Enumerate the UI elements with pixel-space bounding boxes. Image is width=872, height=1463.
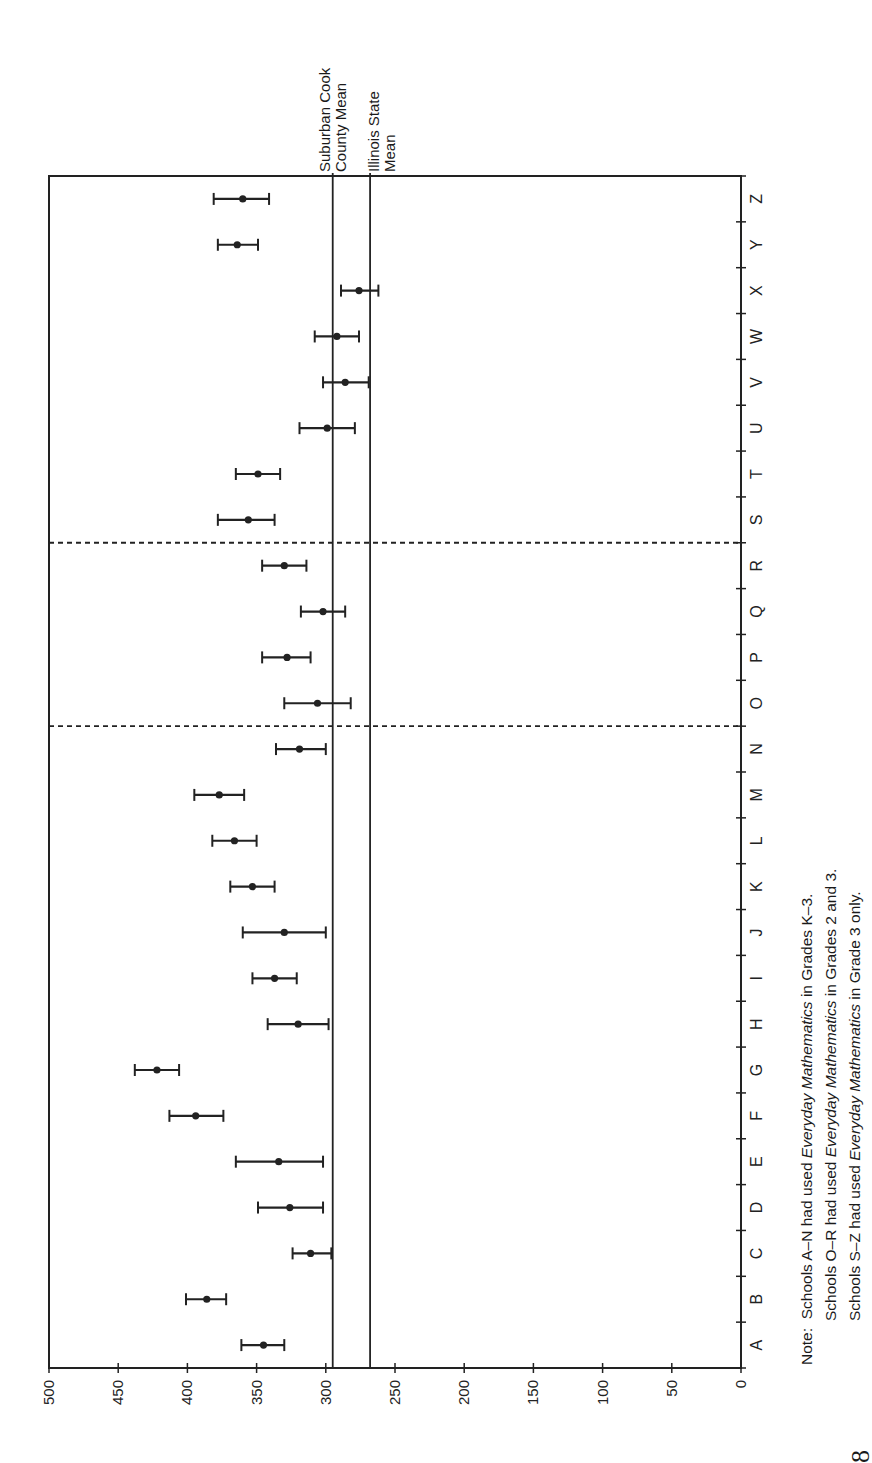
category-label: H [748,1018,765,1030]
note-prefix: Note: [798,1328,815,1365]
data-point [231,837,238,844]
category-label: O [748,697,765,709]
category-label: R [748,560,765,572]
category-label: C [748,1248,765,1260]
data-point [275,1158,282,1165]
value-axis-tick-label: 300 [317,1380,334,1405]
category-label: Q [748,605,765,617]
value-axis-tick-label: 0 [732,1380,749,1388]
value-axis-tick-label: 150 [524,1380,541,1405]
category-label: Y [748,239,765,250]
value-axis-tick-label: 400 [178,1380,195,1405]
value-axis-tick-label: 200 [455,1380,472,1405]
value-axis-tick-label: 450 [109,1380,126,1405]
data-point [295,1021,302,1028]
data-point [333,333,340,340]
note-text: Schools O–R had used Everyday Mathematic… [822,869,839,1321]
category-label: J [748,928,765,936]
category-label: I [748,976,765,980]
category-label: E [748,1156,765,1167]
plot-frame [49,176,741,1368]
category-label: M [748,788,765,801]
category-label: B [748,1294,765,1305]
category-label: D [748,1202,765,1214]
category-label: G [748,1064,765,1076]
data-point [245,516,252,523]
note-text: Schools S–Z had used Everyday Mathematic… [846,891,863,1321]
value-axis-tick-label: 100 [594,1380,611,1405]
note-line-0: Note: Schools A–N had used Everyday Math… [795,869,819,1365]
category-label: Z [748,194,765,204]
data-point [319,608,326,615]
value-axis-tick-label: 350 [248,1380,265,1405]
data-point [249,883,256,890]
category-label: A [748,1339,765,1350]
state-mean-label-line1: Illinois State [366,91,382,172]
value-axis-tick-label: 250 [386,1380,403,1405]
category-label: W [748,328,765,344]
chart-note: Note: Schools A–N had used Everyday Math… [795,869,867,1365]
state-mean-label: Illinois State Mean [366,91,398,172]
cook-mean-label-line1: Suburban Cook [317,68,333,172]
category-label: F [748,1111,765,1121]
data-point [355,287,362,294]
data-point [281,929,288,936]
category-label: V [748,377,765,388]
note-text: Schools A–N had used Everyday Mathematic… [798,894,815,1320]
error-bar-chart: 050100150200250300350400450500ABCDEFGHIJ… [0,0,872,1463]
note-line-1: Schools O–R had used Everyday Mathematic… [819,869,843,1365]
data-point [192,1112,199,1119]
data-point [342,379,349,386]
value-axis-tick-label: 50 [663,1380,680,1397]
page-number: 8 [846,1450,872,1463]
note-line-2: Schools S–Z had used Everyday Mathematic… [843,869,867,1365]
data-point [283,654,290,661]
category-label: P [748,652,765,663]
data-point [296,745,303,752]
category-label: N [748,743,765,755]
data-point [234,241,241,248]
data-point [314,700,321,707]
data-point [307,1250,314,1257]
state-mean-label-line2: Mean [382,91,398,172]
data-point [286,1204,293,1211]
category-label: S [748,515,765,526]
data-point [324,425,331,432]
data-point [260,1341,267,1348]
category-label: K [748,881,765,892]
value-axis-tick-label: 500 [40,1380,57,1405]
data-point [281,562,288,569]
category-label: X [748,285,765,296]
cook-mean-label: Suburban Cook County Mean [317,68,349,172]
category-label: T [748,469,765,479]
data-point [271,975,278,982]
data-point [239,195,246,202]
cook-mean-label-line2: County Mean [333,68,349,172]
category-label: L [748,836,765,845]
data-point [216,791,223,798]
data-point [203,1296,210,1303]
category-label: U [748,422,765,434]
data-point [254,470,261,477]
data-point [153,1066,160,1073]
